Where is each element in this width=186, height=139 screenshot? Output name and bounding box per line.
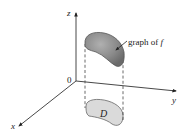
y-axis <box>76 81 176 91</box>
surface-graph-of-f <box>85 32 124 66</box>
region-label: D <box>99 108 108 119</box>
origin-label: 0 <box>67 75 72 85</box>
z-axis-label: z <box>66 8 71 18</box>
y-axis-label: y <box>171 95 176 105</box>
surface-label: graph of f <box>128 37 165 47</box>
x-axis-label: x <box>10 121 15 131</box>
x-axis <box>19 81 76 126</box>
surface-over-region-diagram: z y x 0 graph of f D <box>0 0 186 139</box>
